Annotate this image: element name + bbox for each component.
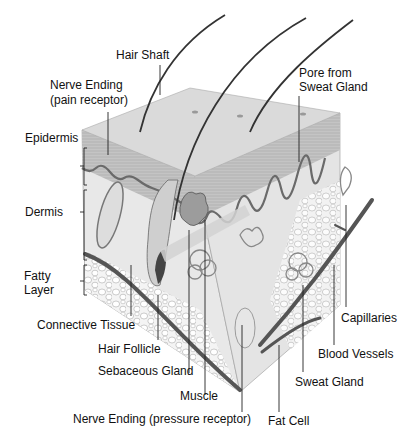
label-epidermis: Epidermis [25, 131, 78, 145]
label-dermis: Dermis [25, 205, 63, 219]
label-pore-sub: Sweat Gland [299, 80, 368, 94]
pressure-receptor [235, 308, 255, 348]
label-hair-shaft: Hair Shaft [116, 48, 169, 62]
label-fatty-sub: Layer [24, 283, 54, 297]
label-sweat-gland: Sweat Gland [295, 375, 364, 389]
label-nerve-ending-pain-sub: (pain receptor) [50, 93, 128, 107]
skin-cross-section-illustration [0, 0, 417, 439]
label-connective-tissue: Connective Tissue [37, 318, 135, 332]
label-nerve-ending-pain: Nerve Ending [50, 78, 123, 92]
label-nerve-ending-pressure: Nerve Ending (pressure receptor) [73, 412, 251, 426]
label-blood-vessels: Blood Vessels [318, 347, 393, 361]
label-sebaceous-gland: Sebaceous Gland [98, 364, 193, 378]
label-fatty: Fatty [24, 269, 51, 283]
label-fat-cell: Fat Cell [268, 414, 309, 428]
label-hair-follicle: Hair Follicle [98, 342, 161, 356]
label-muscle: Muscle [180, 389, 218, 403]
label-pore: Pore from [299, 66, 352, 80]
label-capillaries: Capillaries [341, 311, 397, 325]
